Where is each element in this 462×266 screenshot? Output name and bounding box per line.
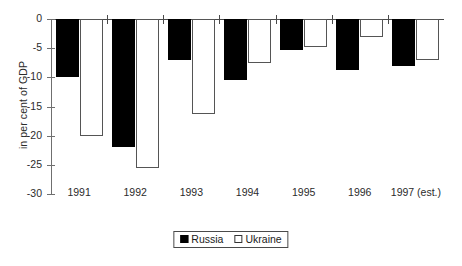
bar-russia-1994 xyxy=(224,19,247,80)
legend-label-ukraine: Ukraine xyxy=(245,233,281,245)
bar-group xyxy=(51,19,107,194)
x-tick-label: 1994 xyxy=(236,186,259,198)
bar-russia-1991 xyxy=(56,19,79,77)
bar-russia-1995 xyxy=(280,19,303,50)
bar-russia-1996 xyxy=(336,19,359,70)
y-tick-label: -10 xyxy=(27,70,42,82)
x-tick-label: 1995 xyxy=(292,186,315,198)
plot-area: 0-5-10-15-20-25-30 xyxy=(51,19,444,194)
bar-ukraine-1995 xyxy=(304,19,327,47)
bar-group xyxy=(163,19,219,194)
bar-ukraine-1993 xyxy=(192,19,215,114)
bar-ukraine-1997 xyxy=(416,19,439,60)
bar-ukraine-1996 xyxy=(360,19,383,37)
y-tick-label: 0 xyxy=(36,12,42,24)
bar-ukraine-1992 xyxy=(136,19,159,168)
x-tick-label: 1997 (est.) xyxy=(391,186,441,198)
chart-legend: Russia Ukraine xyxy=(173,231,288,248)
y-tick-label: -15 xyxy=(27,100,42,112)
bar-russia-1992 xyxy=(112,19,135,147)
bar-ukraine-1991 xyxy=(80,19,103,136)
x-tick-label: 1991 xyxy=(67,186,90,198)
bar-russia-1997 xyxy=(392,19,415,66)
bar-ukraine-1994 xyxy=(248,19,271,63)
legend-swatch-ukraine-icon xyxy=(234,235,242,243)
bar-group xyxy=(332,19,388,194)
x-tick-label: 1992 xyxy=(124,186,147,198)
x-tick-label: 1993 xyxy=(180,186,203,198)
bar-group xyxy=(107,19,163,194)
legend-swatch-russia-icon xyxy=(180,235,188,243)
x-tick-label: 1996 xyxy=(348,186,371,198)
y-tick-label: -30 xyxy=(27,187,42,199)
bar-group xyxy=(219,19,275,194)
legend-label-russia: Russia xyxy=(191,233,223,245)
legend-item-ukraine: Ukraine xyxy=(234,233,281,245)
bar-group xyxy=(388,19,444,194)
y-tick-label: -25 xyxy=(27,158,42,170)
legend-item-russia: Russia xyxy=(180,233,223,245)
gdp-decline-bar-chart: in per cent of GDP 0-5-10-15-20-25-30 19… xyxy=(0,0,462,266)
y-tick: -30 xyxy=(47,194,55,195)
bar-russia-1993 xyxy=(168,19,191,60)
y-tick-label: -5 xyxy=(33,41,42,53)
bar-group xyxy=(276,19,332,194)
y-tick-label: -20 xyxy=(27,129,42,141)
